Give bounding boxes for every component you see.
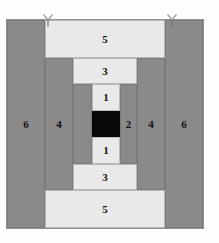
region-top-band-3: 3 bbox=[73, 58, 137, 84]
region-mid-right-4: 4 bbox=[137, 58, 165, 190]
region-label: 6 bbox=[23, 119, 29, 130]
region-top-band-5: 5 bbox=[45, 20, 165, 58]
region-label: 5 bbox=[102, 204, 108, 215]
region-label: 3 bbox=[102, 66, 108, 77]
region-label: 4 bbox=[56, 119, 62, 130]
region-outer-left-6: 6 bbox=[7, 20, 45, 228]
region-label: 3 bbox=[102, 172, 108, 183]
marker-right-icon bbox=[166, 13, 178, 27]
region-top-core-1: 1 bbox=[92, 84, 120, 111]
region-label: 6 bbox=[181, 119, 187, 130]
region-inner-right-2: 2 bbox=[120, 84, 137, 164]
region-bottom-band-5: 5 bbox=[45, 190, 165, 228]
region-outer-right-6: 6 bbox=[165, 20, 203, 228]
region-bottom-band-3: 3 bbox=[73, 164, 137, 190]
marker-left-icon bbox=[42, 13, 54, 27]
region-label: 1 bbox=[103, 145, 109, 156]
figure-canvas: 66554433211 bbox=[0, 0, 219, 243]
region-bottom-core-1: 1 bbox=[92, 137, 120, 164]
region-label: 2 bbox=[126, 119, 132, 130]
region-mid-left-4: 4 bbox=[45, 58, 73, 190]
region-center-black bbox=[92, 111, 120, 137]
region-label: 1 bbox=[103, 92, 109, 103]
region-inner-left-gray bbox=[73, 84, 92, 164]
region-label: 5 bbox=[102, 34, 108, 45]
region-label: 4 bbox=[148, 119, 154, 130]
